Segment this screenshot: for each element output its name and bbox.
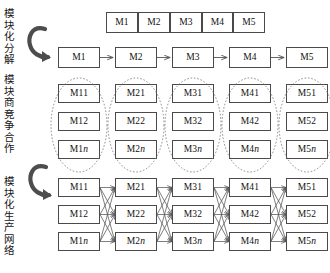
network-box-label: M11 — [70, 183, 88, 193]
network-box-m22: M22 — [115, 205, 157, 224]
diagram-canvas: 模块化分解 模块商竞争合作 模块化生产网络 M1 M2 M3 M4 M5 M1 … — [0, 0, 330, 273]
network-box-label: M52 — [298, 210, 317, 220]
network-box-m52: M52 — [286, 205, 328, 224]
supplier-box-label: M21 — [127, 89, 146, 99]
network-box-m11: M11 — [58, 178, 100, 197]
network-box-m5n: M5n — [286, 232, 328, 251]
module-chain-node-label: M1 — [72, 53, 86, 63]
stage-label-production-network: 模块化生产网络 — [2, 176, 14, 257]
supplier-box-m21: M21 — [115, 84, 157, 103]
module-chain-node-m2: M2 — [115, 47, 157, 68]
supplier-box-label: M5n — [298, 145, 317, 155]
supplier-box-label: M32 — [184, 117, 203, 127]
connector-overlay — [0, 0, 330, 273]
supplier-box-m11: M11 — [58, 84, 100, 103]
supplier-box-label: M2n — [127, 145, 146, 155]
supplier-box-label: M11 — [70, 89, 88, 99]
top-bar-cell-m1: M1 — [106, 12, 138, 33]
supplier-box-label: M51 — [298, 89, 317, 99]
supplier-box-m5n: M5n — [286, 140, 328, 159]
supplier-box-label: M12 — [70, 117, 89, 127]
top-bar-cell-label: M4 — [211, 18, 225, 28]
network-box-m1n: M1n — [58, 232, 100, 251]
module-chain-node-label: M5 — [300, 53, 314, 63]
network-box-m12: M12 — [58, 205, 100, 224]
supplier-box-m22: M22 — [115, 112, 157, 131]
top-bar-cell-label: M5 — [242, 18, 256, 28]
top-bar-cell-m5: M5 — [233, 12, 265, 33]
stage-label-competition-cooperation: 模块商竞争合作 — [2, 74, 14, 155]
network-box-m4n: M4n — [229, 232, 271, 251]
network-box-label: M12 — [70, 210, 89, 220]
supplier-box-label: M42 — [241, 117, 260, 127]
network-box-label: M3n — [184, 237, 203, 247]
module-chain-node-label: M3 — [186, 53, 200, 63]
top-bar-cell-label: M2 — [147, 18, 161, 28]
top-bar-cell-label: M1 — [115, 18, 129, 28]
module-chain-node-label: M2 — [129, 53, 143, 63]
top-bar-cell-m2: M2 — [138, 12, 170, 33]
supplier-box-m32: M32 — [172, 112, 214, 131]
supplier-box-m42: M42 — [229, 112, 271, 131]
network-box-label: M31 — [184, 183, 203, 193]
supplier-box-m51: M51 — [286, 84, 328, 103]
network-box-m41: M41 — [229, 178, 271, 197]
network-box-label: M51 — [298, 183, 317, 193]
module-chain-node-m5: M5 — [286, 47, 328, 68]
network-box-label: M22 — [127, 210, 146, 220]
supplier-box-m52: M52 — [286, 112, 328, 131]
network-box-label: M32 — [184, 210, 203, 220]
supplier-box-m1n: M1n — [58, 140, 100, 159]
supplier-box-m12: M12 — [58, 112, 100, 131]
network-box-label: M4n — [241, 237, 260, 247]
supplier-box-label: M31 — [184, 89, 203, 99]
supplier-box-m3n: M3n — [172, 140, 214, 159]
top-bar-cell-label: M3 — [179, 18, 193, 28]
network-box-m3n: M3n — [172, 232, 214, 251]
network-box-m51: M51 — [286, 178, 328, 197]
top-bar-cell-m3: M3 — [170, 12, 202, 33]
network-box-label: M2n — [127, 237, 146, 247]
network-box-label: M21 — [127, 183, 146, 193]
supplier-box-m41: M41 — [229, 84, 271, 103]
supplier-box-label: M52 — [298, 117, 317, 127]
supplier-box-m31: M31 — [172, 84, 214, 103]
stage-label-decomposition: 模块化分解 — [2, 8, 14, 66]
supplier-box-label: M1n — [70, 145, 89, 155]
supplier-box-label: M4n — [241, 145, 260, 155]
module-chain-node-m4: M4 — [229, 47, 271, 68]
supplier-box-m2n: M2n — [115, 140, 157, 159]
supplier-box-label: M3n — [184, 145, 203, 155]
network-box-m21: M21 — [115, 178, 157, 197]
network-box-m31: M31 — [172, 178, 214, 197]
network-box-m2n: M2n — [115, 232, 157, 251]
curved-arrow-network-icon — [30, 166, 52, 200]
module-chain-node-m1: M1 — [58, 47, 100, 68]
top-bar-cell-m4: M4 — [202, 12, 233, 33]
network-box-m42: M42 — [229, 205, 271, 224]
network-box-label: M1n — [70, 237, 89, 247]
module-chain-node-label: M4 — [243, 53, 257, 63]
network-box-m32: M32 — [172, 205, 214, 224]
supplier-box-m4n: M4n — [229, 140, 271, 159]
curved-arrow-decomposition-icon — [29, 28, 51, 62]
network-box-label: M41 — [241, 183, 260, 193]
supplier-box-label: M22 — [127, 117, 146, 127]
supplier-box-label: M41 — [241, 89, 260, 99]
network-box-label: M5n — [298, 237, 317, 247]
network-box-label: M42 — [241, 210, 260, 220]
module-chain-node-m3: M3 — [172, 47, 214, 68]
